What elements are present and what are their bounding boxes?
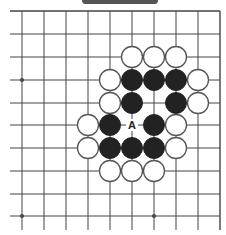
black-stone bbox=[166, 70, 187, 91]
white-stone bbox=[166, 115, 187, 136]
black-stone bbox=[122, 93, 143, 114]
white-stone bbox=[188, 93, 209, 114]
white-stone bbox=[188, 70, 209, 91]
white-stone bbox=[78, 138, 99, 159]
white-stone bbox=[100, 161, 121, 182]
go-board: A bbox=[0, 0, 226, 235]
white-stone bbox=[78, 115, 99, 136]
white-stone bbox=[100, 93, 121, 114]
black-stone bbox=[144, 138, 165, 159]
black-stone bbox=[122, 70, 143, 91]
white-stone bbox=[122, 47, 143, 68]
white-stone bbox=[122, 161, 143, 182]
black-stone bbox=[144, 70, 165, 91]
point-label-a: A bbox=[128, 119, 136, 131]
black-stone bbox=[100, 115, 121, 136]
star-point bbox=[152, 214, 156, 218]
white-stone bbox=[144, 47, 165, 68]
black-stone bbox=[166, 93, 187, 114]
white-stone bbox=[144, 161, 165, 182]
labels: A bbox=[126, 119, 138, 131]
black-stone bbox=[144, 115, 165, 136]
white-stone bbox=[166, 47, 187, 68]
white-stone bbox=[100, 70, 121, 91]
star-point bbox=[20, 78, 24, 82]
star-point bbox=[20, 214, 24, 218]
white-stone bbox=[166, 138, 187, 159]
black-stone bbox=[122, 138, 143, 159]
stones bbox=[78, 47, 209, 182]
black-stone bbox=[100, 138, 121, 159]
